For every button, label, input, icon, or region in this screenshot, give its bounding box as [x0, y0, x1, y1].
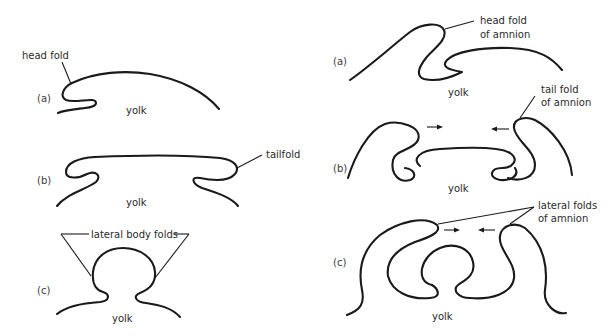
- yolk-label-left-b: yolk: [126, 197, 147, 208]
- head-fold-amnion-label-line2: of amnion: [480, 29, 530, 40]
- background: [0, 0, 614, 336]
- panel-label-right-b: (b): [333, 163, 347, 174]
- lateral-body-folds-label: lateral body folds: [91, 229, 178, 240]
- panel-label-left-c: (c): [37, 285, 50, 296]
- embryo-folding-diagram: head fold (a) yolk (b) tailfold yolk lat…: [0, 0, 614, 336]
- yolk-label-left-c: yolk: [112, 313, 133, 324]
- head-fold-label: head fold: [22, 50, 69, 61]
- panel-label-left-b: (b): [37, 175, 51, 186]
- tail-fold-amnion-label-line2: of amnion: [541, 97, 591, 108]
- panel-label-left-a: (a): [37, 93, 51, 104]
- yolk-label-right-c: yolk: [432, 311, 453, 322]
- panel-label-right-a: (a): [333, 56, 347, 67]
- yolk-label-right-a: yolk: [448, 87, 469, 98]
- lateral-folds-amnion-label-line1: lateral folds: [538, 200, 597, 211]
- lateral-folds-amnion-label-line2: of amnion: [538, 213, 588, 224]
- yolk-label-right-b: yolk: [448, 183, 469, 194]
- head-fold-amnion-label-line1: head fold: [480, 15, 527, 26]
- tailfold-label: tailfold: [266, 149, 300, 160]
- panel-label-right-c: (c): [333, 257, 346, 268]
- yolk-label-left-a: yolk: [126, 105, 147, 116]
- tail-fold-amnion-label-line1: tail fold: [541, 84, 579, 95]
